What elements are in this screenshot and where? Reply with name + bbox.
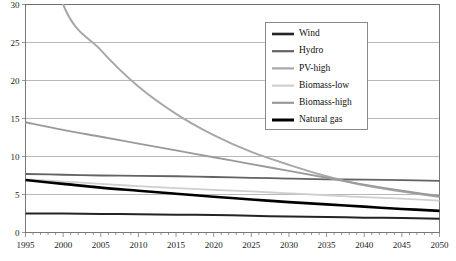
gridlines — [26, 5, 440, 195]
series-line-biomass-high — [26, 122, 440, 196]
legend-label-natural-gas: Natural gas — [299, 114, 343, 124]
x-axis-major-ticks — [26, 233, 440, 238]
x-tick-label-2000: 2000 — [54, 240, 73, 250]
chart-legend: WindHydroPV-highBiomass-lowBiomass-highN… — [266, 23, 368, 130]
y-tick-label-10: 10 — [11, 152, 21, 162]
x-tick-label-2025: 2025 — [242, 240, 261, 250]
legend-label-biomass-low: Biomass-low — [299, 80, 349, 90]
chart-container: 051015202530 199520002005201020152020202… — [0, 0, 456, 261]
x-tick-label-2030: 2030 — [280, 240, 299, 250]
x-tick-label-2050: 2050 — [431, 240, 450, 250]
y-tick-label-5: 5 — [15, 190, 20, 200]
x-tick-label-2040: 2040 — [355, 240, 374, 250]
y-tick-label-15: 15 — [11, 114, 21, 124]
y-tick-label-0: 0 — [15, 228, 20, 238]
x-tick-label-2020: 2020 — [205, 240, 224, 250]
data-series-group — [26, 0, 440, 219]
x-tick-label-2035: 2035 — [318, 240, 337, 250]
x-axis-tick-labels: 1995200020052010201520202025203020352040… — [17, 240, 450, 250]
series-line-natural-gas — [26, 180, 440, 211]
x-tick-label-2015: 2015 — [167, 240, 186, 250]
series-line-pv-high — [26, 0, 440, 197]
y-tick-label-30: 30 — [11, 0, 21, 10]
y-tick-label-20: 20 — [11, 76, 21, 86]
legend-label-hydro: Hydro — [299, 45, 324, 55]
series-line-hydro — [26, 174, 440, 181]
y-axis-ticks — [22, 5, 26, 233]
x-tick-label-2010: 2010 — [129, 240, 148, 250]
legend-label-pv-high: PV-high — [299, 63, 331, 73]
line-chart: 051015202530 199520002005201020152020202… — [0, 0, 456, 261]
y-tick-label-25: 25 — [11, 38, 21, 48]
y-axis-tick-labels: 051015202530 — [11, 0, 21, 238]
x-tick-label-2005: 2005 — [92, 240, 111, 250]
x-tick-label-2045: 2045 — [393, 240, 412, 250]
series-line-wind — [26, 213, 440, 218]
legend-label-biomass-high: Biomass-high — [299, 97, 352, 107]
x-tick-label-1995: 1995 — [17, 240, 36, 250]
legend-label-wind: Wind — [299, 28, 320, 38]
